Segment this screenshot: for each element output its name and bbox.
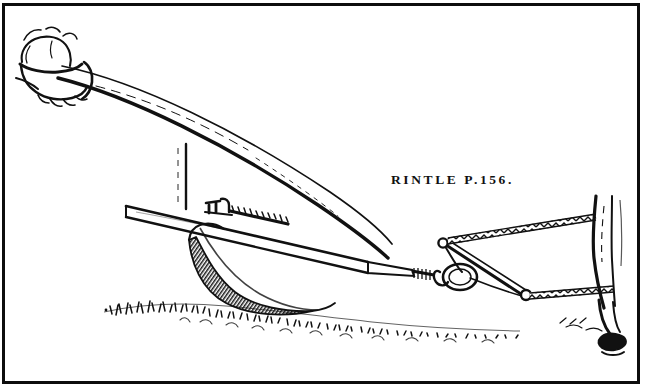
horse-hoof [598, 333, 626, 355]
grass-and-soil [104, 301, 586, 343]
swingletree [438, 238, 531, 300]
toothed-rack [230, 206, 288, 224]
hitch-ring [434, 264, 477, 290]
upper-trace-chain [448, 214, 596, 244]
plate-caption: RINTLE P.156. [391, 172, 514, 188]
ground-shadow-marks [566, 325, 602, 331]
plough-engraving-artwork [0, 0, 646, 391]
hand-and-cuff-group [16, 27, 92, 106]
coulter-bracket [205, 199, 232, 215]
horse-hind-leg [593, 196, 621, 334]
engraving-plate: RINTLE P.156. [0, 0, 646, 391]
vertical-brace [178, 144, 186, 209]
